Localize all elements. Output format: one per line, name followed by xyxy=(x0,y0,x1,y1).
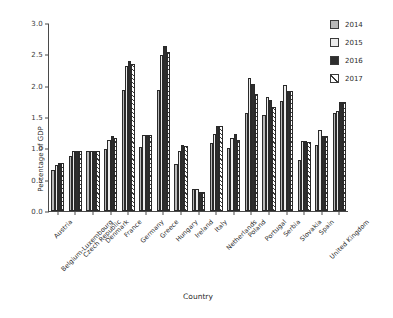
x-label-cell: Poland xyxy=(242,216,260,286)
x-tick-mark xyxy=(251,211,252,215)
x-tick-mark xyxy=(180,211,181,215)
x-tick-mark xyxy=(216,211,217,215)
plot-area: 0.00.51.01.52.02.53.0 xyxy=(48,24,348,212)
x-tick-mark xyxy=(233,211,234,215)
x-tick-mark xyxy=(75,211,76,215)
x-label-cell: Portugal xyxy=(260,216,278,286)
x-label-cell: Hungary xyxy=(171,216,189,286)
bar-spain-2017 xyxy=(325,136,328,211)
bar-group xyxy=(172,24,190,211)
bar-portugal-2017 xyxy=(272,107,275,211)
bar-denmark-2017 xyxy=(114,138,117,211)
bar-greece-2017 xyxy=(167,52,170,211)
x-label-cell: Spain xyxy=(313,216,331,286)
x-tick-label: United Kingdom xyxy=(328,218,371,261)
bar-netherlands-2017 xyxy=(237,140,240,211)
bar-ireland-2017 xyxy=(202,192,205,211)
bar-group xyxy=(225,24,243,211)
x-tick-mark xyxy=(198,211,199,215)
legend-label-2016: 2016 xyxy=(345,57,363,65)
x-tick-mark xyxy=(304,211,305,215)
bar-group xyxy=(278,24,296,211)
x-label-cell: United Kingdom xyxy=(330,216,348,286)
x-label-cell: Germany xyxy=(136,216,154,286)
legend-label-2015: 2015 xyxy=(345,39,363,47)
x-axis-title: Country xyxy=(48,292,348,301)
legend-label-2017: 2017 xyxy=(345,75,363,83)
bar-group xyxy=(243,24,261,211)
x-label-cell: Greece xyxy=(154,216,172,286)
legend-item-2015[interactable]: 2015 xyxy=(330,38,363,47)
bar-serbia-2017 xyxy=(290,91,293,211)
x-tick-mark xyxy=(128,211,129,215)
bar-poland-2017 xyxy=(255,94,258,211)
x-label-cell: Czech Republic xyxy=(83,216,101,286)
x-tick-mark xyxy=(286,211,287,215)
y-tick-mark xyxy=(45,212,49,213)
bar-group xyxy=(84,24,102,211)
x-label-cell: Belgium-Luxembourg xyxy=(66,216,84,286)
legend-item-2014[interactable]: 2014 xyxy=(330,20,363,29)
x-label-cell: Netherlands xyxy=(224,216,242,286)
x-label-cell: France xyxy=(119,216,137,286)
bar-group xyxy=(190,24,208,211)
legend-swatch-2015 xyxy=(330,38,339,47)
x-tick-mark xyxy=(339,211,340,215)
bar-united-kingdom-2017 xyxy=(343,102,346,211)
legend-swatch-2016 xyxy=(330,56,339,65)
x-tick-mark xyxy=(321,211,322,215)
x-label-cell: Ireland xyxy=(189,216,207,286)
x-tick-mark xyxy=(163,211,164,215)
bar-group xyxy=(137,24,155,211)
bar-group xyxy=(260,24,278,211)
bar-chart: Percentage of GDP 0.00.51.01.52.02.53.0 … xyxy=(0,0,393,318)
x-tick-mark xyxy=(110,211,111,215)
x-tick-mark xyxy=(145,211,146,215)
legend-swatch-2014 xyxy=(330,20,339,29)
x-label-cell: Austria xyxy=(48,216,66,286)
bar-france-2017 xyxy=(131,64,134,211)
bar-germany-2017 xyxy=(149,135,152,211)
bar-czech-republic-2017 xyxy=(96,151,99,211)
bar-italy-2017 xyxy=(219,126,222,211)
x-label-cell: Slovakia xyxy=(295,216,313,286)
bar-austria-2017 xyxy=(61,163,64,211)
bar-belgium-luxembourg-2017 xyxy=(79,151,82,211)
legend-swatch-2017 xyxy=(330,74,339,83)
legend-item-2017[interactable]: 2017 xyxy=(330,74,363,83)
bar-group xyxy=(67,24,85,211)
x-tick-mark xyxy=(92,211,93,215)
x-tick-mark xyxy=(57,211,58,215)
bar-group xyxy=(155,24,173,211)
legend: 2014201520162017 xyxy=(330,20,363,83)
x-tick-mark xyxy=(268,211,269,215)
bar-group xyxy=(295,24,313,211)
x-label-cell: Serbia xyxy=(277,216,295,286)
bar-group xyxy=(49,24,67,211)
x-label-cell: Denmark xyxy=(101,216,119,286)
bar-hungary-2017 xyxy=(184,146,187,211)
x-label-cell: Italy xyxy=(207,216,225,286)
bar-groups xyxy=(49,24,348,211)
legend-label-2014: 2014 xyxy=(345,21,363,29)
bar-group xyxy=(313,24,331,211)
bar-group xyxy=(119,24,137,211)
bar-slovakia-2017 xyxy=(307,142,310,211)
bar-group xyxy=(207,24,225,211)
bar-group xyxy=(102,24,120,211)
legend-item-2016[interactable]: 2016 xyxy=(330,56,363,65)
x-axis-labels: AustriaBelgium-LuxembourgCzech RepublicD… xyxy=(48,216,348,286)
